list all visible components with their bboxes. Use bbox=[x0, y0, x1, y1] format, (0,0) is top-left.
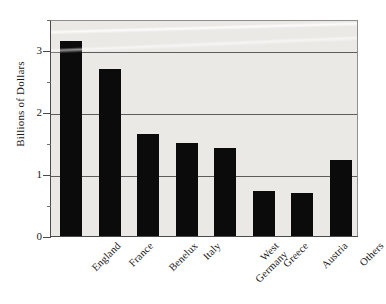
bar-others bbox=[330, 160, 352, 236]
y-tick-minor-3.5 bbox=[47, 20, 51, 21]
bar-france bbox=[99, 69, 121, 236]
bar-italy bbox=[176, 143, 198, 236]
bar-austria bbox=[291, 193, 313, 236]
x-axis-tick-labels: EnglandFranceBeneluxItalyWestGermanyGree… bbox=[50, 240, 358, 304]
bar-series bbox=[51, 21, 357, 236]
x-tick-label-france: France bbox=[126, 240, 156, 270]
x-tick-label-italy: Italy bbox=[201, 240, 224, 263]
y-tick-label-1: 1 bbox=[16, 169, 42, 180]
y-tick-minor-2.5 bbox=[47, 82, 51, 83]
x-tick-label-austria: Austria bbox=[320, 240, 351, 271]
bar-west-germany bbox=[214, 148, 236, 236]
y-tick-label-2: 2 bbox=[16, 107, 42, 118]
x-tick-label-benelux: Benelux bbox=[167, 240, 201, 274]
y-tick-major-3 bbox=[43, 51, 51, 52]
plot-area bbox=[50, 20, 358, 237]
x-tick-label-england: England bbox=[90, 240, 124, 274]
y-tick-major-2 bbox=[43, 113, 51, 114]
y-tick-major-0 bbox=[43, 237, 51, 238]
bar-benelux bbox=[137, 134, 159, 236]
x-axis-line bbox=[50, 236, 358, 237]
y-tick-minor-0.5 bbox=[47, 206, 51, 207]
y-tick-label-0: 0 bbox=[16, 231, 42, 242]
bar-england bbox=[60, 41, 82, 236]
y-axis-tick-labels: 0123 bbox=[8, 0, 42, 304]
y-tick-major-1 bbox=[43, 175, 51, 176]
y-tick-label-3: 3 bbox=[16, 45, 42, 56]
bar-greece bbox=[253, 191, 275, 236]
y-axis-line bbox=[50, 20, 51, 237]
x-tick-label-others: Others bbox=[357, 240, 386, 269]
y-tick-minor-1.5 bbox=[47, 144, 51, 145]
